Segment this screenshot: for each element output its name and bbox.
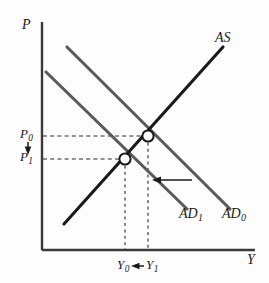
as-curve-label-base: AS xyxy=(215,30,231,45)
as-curve-label: AS xyxy=(215,31,231,45)
output-tick-y0: Y0 xyxy=(117,258,129,274)
price-tick-p0-subscript: 0 xyxy=(28,133,33,143)
ad1-curve-label-base: AD xyxy=(179,206,198,221)
equilibrium-point-e0 xyxy=(142,130,153,141)
output-tick-y0-subscript: 0 xyxy=(124,264,129,274)
equilibrium-point-e1 xyxy=(119,153,130,164)
guide-lines-group xyxy=(43,136,148,249)
price-tick-p1: P1 xyxy=(20,150,33,166)
ad1-curve-label: AD1 xyxy=(179,207,203,223)
price-tick-p1-subscript: 1 xyxy=(28,156,33,166)
output-tick-y1: Y1 xyxy=(146,258,158,274)
ad1-curve-label-subscript: 1 xyxy=(198,212,203,223)
y-axis-label: P xyxy=(22,18,31,32)
ad1-curve xyxy=(46,72,187,209)
price-tick-p1-base: P xyxy=(20,149,28,164)
price-tick-p0-base: P xyxy=(20,126,28,141)
x-axis-label: Y xyxy=(247,253,255,267)
output-change-arrow xyxy=(131,263,144,270)
ad-as-diagram: P Y P0 P1 Y0 Y1 AS AD0 AD1 xyxy=(0,0,269,283)
price-tick-p0: P0 xyxy=(20,127,33,143)
ad0-curve-label-subscript: 0 xyxy=(241,212,246,223)
output-tick-y1-subscript: 1 xyxy=(153,264,158,274)
ad0-curve-label: AD0 xyxy=(222,207,246,223)
ad0-curve-label-base: AD xyxy=(222,206,241,221)
